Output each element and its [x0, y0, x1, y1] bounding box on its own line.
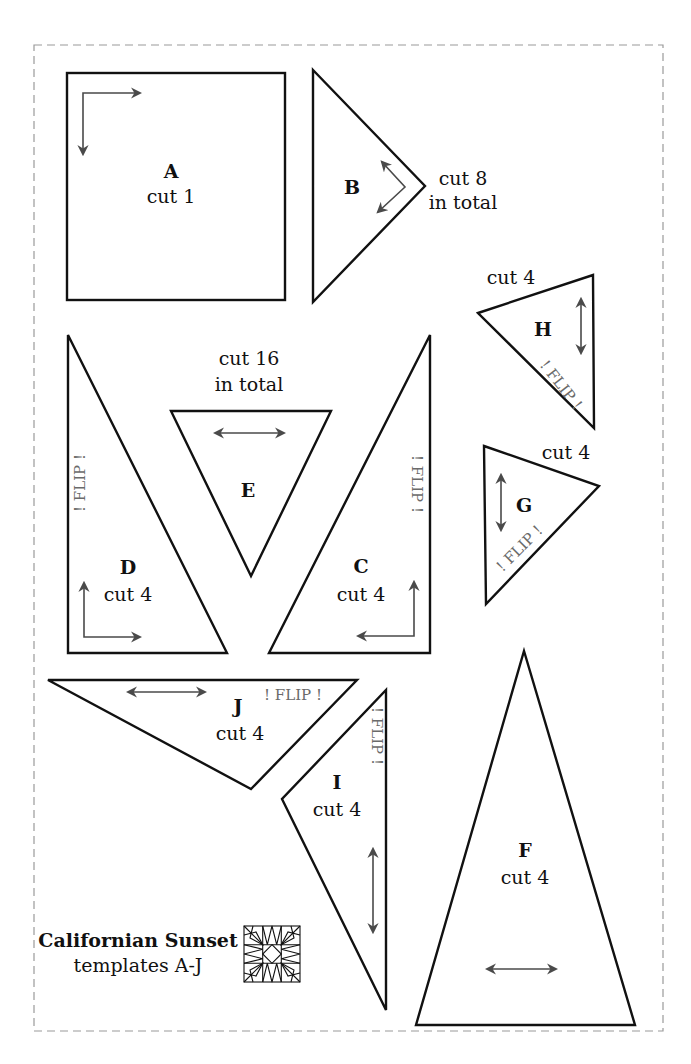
- template-h: H cut 4 ! FLIP !: [478, 266, 594, 428]
- template-f-letter: F: [518, 839, 532, 861]
- template-f: F cut 4: [416, 651, 635, 1025]
- template-b-shape: [313, 70, 425, 302]
- template-b: B cut 8 in total: [313, 70, 497, 302]
- template-d-letter: D: [120, 556, 136, 578]
- template-c-letter: C: [353, 555, 368, 577]
- template-c-shape: [269, 335, 430, 653]
- template-e-cut-total: in total: [215, 373, 283, 395]
- template-e-letter: E: [241, 479, 255, 501]
- template-j-cut: cut 4: [216, 722, 265, 744]
- diagram-title-block: Californian Sunset templates A-J: [38, 929, 238, 976]
- diagram-subtitle: templates A-J: [74, 954, 203, 976]
- template-c: ! FLIP ! C cut 4: [269, 335, 430, 653]
- template-g-letter: G: [516, 494, 532, 516]
- template-h-letter: H: [534, 318, 552, 340]
- template-a-cut: cut 1: [147, 185, 196, 207]
- template-a-letter: A: [163, 160, 179, 182]
- template-d: ! FLIP ! D cut 4: [68, 335, 227, 653]
- template-j-letter: J: [232, 695, 243, 717]
- template-i-flip: ! FLIP !: [368, 707, 386, 765]
- template-g-cut: cut 4: [542, 441, 591, 463]
- template-e-cut: cut 16: [219, 347, 280, 369]
- template-h-cut: cut 4: [487, 266, 536, 288]
- template-c-flip: ! FLIP !: [408, 455, 426, 513]
- template-c-cut: cut 4: [337, 583, 386, 605]
- template-b-cut-total: in total: [429, 191, 497, 213]
- template-i-cut: cut 4: [313, 798, 362, 820]
- template-g: G cut 4 ! FLIP !: [484, 441, 599, 604]
- quilt-block-icon: [244, 926, 300, 982]
- template-e: E cut 16 in total: [171, 347, 331, 576]
- template-d-cut: cut 4: [104, 583, 153, 605]
- template-f-cut: cut 4: [501, 866, 550, 888]
- template-d-flip: ! FLIP !: [71, 454, 89, 512]
- diagram-title: Californian Sunset: [38, 929, 238, 951]
- template-j-flip: ! FLIP !: [264, 686, 322, 704]
- template-sheet: A cut 1 B cut 8 in total H cut 4 ! FLIP …: [0, 0, 691, 1064]
- template-b-letter: B: [344, 176, 360, 198]
- template-d-shape: [68, 335, 227, 653]
- template-a: A cut 1: [67, 73, 285, 300]
- template-i-letter: I: [333, 771, 342, 793]
- template-b-cut: cut 8: [439, 167, 488, 189]
